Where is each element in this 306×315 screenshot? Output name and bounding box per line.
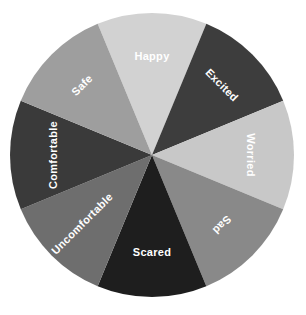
emotion-wheel-chart: HappyExcitedWorriedSadScaredUncomfortabl… xyxy=(0,0,306,315)
pie-slices-group xyxy=(10,13,294,297)
emotion-wheel-svg: HappyExcitedWorriedSadScaredUncomfortabl… xyxy=(0,0,306,315)
